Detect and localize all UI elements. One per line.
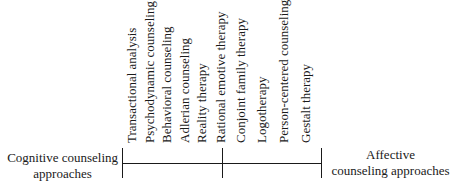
approach-label: Reality therapy [194,0,210,143]
left-label-line1: Cognitive counseling [7,150,118,166]
approach-label: Transactional analysis [124,0,140,143]
approach-label-text: Person-centered counseling [276,0,292,143]
approach-label-text: Psychodynamic counseling [142,1,158,143]
midpoint-tick [222,148,223,178]
approach-label-text: Gestalt therapy [298,64,314,143]
approach-label: Psychodynamic counseling [142,0,158,143]
right-label-line2: counseling approaches [328,163,453,179]
right-end-tick [321,148,322,178]
approach-label: Conjoint family therapy [233,0,249,143]
approach-label-text: Transactional analysis [124,28,140,143]
approach-label-text: Conjoint family therapy [233,18,249,143]
approach-label-text: Behavioral counseling [159,26,175,143]
affective-approaches-label: Affective counseling approaches [328,147,453,179]
left-label-line2: approaches [7,166,118,182]
left-end-tick [122,148,123,178]
approach-label: Behavioral counseling [159,0,175,143]
approach-label: Logotherapy [254,0,270,143]
approach-label: Rational emotive therapy [213,0,229,143]
approach-label-text: Logotherapy [254,77,270,143]
right-label-line1: Affective [328,147,453,163]
approach-label: Person-centered counseling [276,0,292,143]
approach-label-text: Rational emotive therapy [213,12,229,143]
approach-label-text: Adlerian counseling [177,38,193,143]
approach-label-text: Reality therapy [194,63,210,143]
approach-label: Gestalt therapy [298,0,314,143]
approach-label: Adlerian counseling [177,0,193,143]
cognitive-approaches-label: Cognitive counseling approaches [7,150,118,182]
